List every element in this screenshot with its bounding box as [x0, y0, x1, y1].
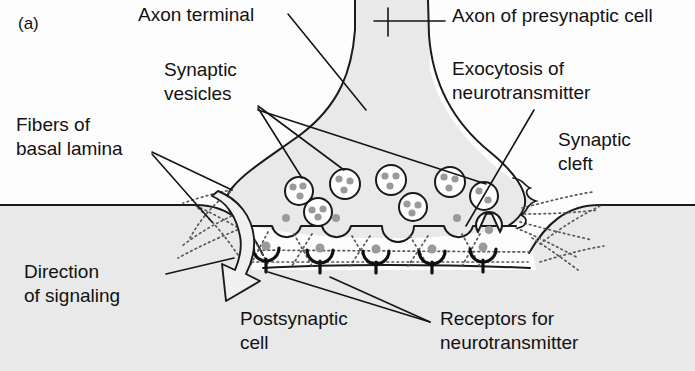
label-synaptic-cleft-line1: Synaptic [558, 129, 631, 150]
released-granule [453, 214, 461, 222]
released-granule [332, 214, 340, 222]
vesicle [330, 169, 360, 199]
label-exocytosis-line2: neurotransmitter [452, 82, 591, 103]
label-synaptic-vesicles-line2: vesicles [164, 83, 232, 104]
label-fibers-line1: Fibers of [16, 114, 91, 135]
vesicle [376, 165, 406, 195]
synapse-diagram: (a) Axon terminal Axon of presynaptic ce… [0, 0, 695, 371]
panel-label: (a) [18, 14, 39, 33]
vesicle [304, 198, 332, 226]
label-fibers-line2: basal lamina [16, 138, 123, 159]
released-granule [282, 214, 290, 222]
label-synaptic-cleft-line2: cleft [558, 153, 594, 174]
label-receptors-line1: Receptors for [440, 308, 555, 329]
label-axon-presynaptic: Axon of presynaptic cell [452, 5, 653, 26]
label-direction-line2: of signaling [24, 285, 120, 306]
label-postsynaptic-line2: cell [240, 332, 269, 353]
label-axon-terminal: Axon terminal [138, 4, 254, 25]
label-receptors-line2: neurotransmitter [440, 332, 579, 353]
label-synaptic-vesicles-line1: Synaptic [164, 59, 237, 80]
label-postsynaptic-line1: Postsynaptic [240, 308, 348, 329]
label-exocytosis-line1: Exocytosis of [452, 58, 565, 79]
vesicle [399, 193, 427, 221]
label-direction-line1: Direction [24, 261, 99, 282]
